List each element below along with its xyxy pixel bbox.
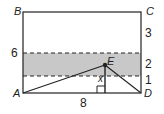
label-x: x [98,74,103,84]
label-one: 1 [145,74,152,86]
label-c: C [146,6,154,17]
label-three: 3 [145,27,152,39]
label-a: A [13,88,20,99]
label-b: B [14,6,21,17]
label-e: E [107,56,114,67]
label-six: 6 [11,47,18,59]
right-angle-marker [97,86,105,93]
label-d: D [144,88,152,99]
label-two: 2 [145,58,152,70]
label-eight: 8 [80,97,87,109]
geometry-diagram: B C A D E 6 3 2 1 8 x [0,0,164,114]
